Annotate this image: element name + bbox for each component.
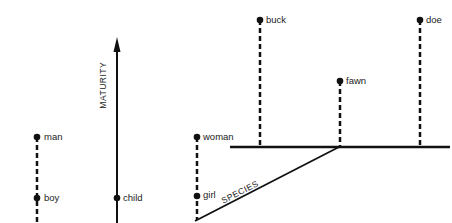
maturity-axis-label: MATURITY (99, 55, 108, 115)
node-woman-dot (194, 134, 201, 141)
label-fawn: fawn (346, 76, 366, 86)
label-boy: boy (44, 193, 59, 203)
label-woman: woman (203, 132, 234, 142)
node-child-dot (114, 195, 121, 202)
diagram-lines (0, 0, 452, 223)
label-man: man (44, 132, 62, 142)
label-girl: girl (203, 190, 216, 200)
node-doe-dot (417, 17, 424, 24)
species-axis-line (195, 147, 339, 221)
node-man-dot (34, 134, 41, 141)
label-buck: buck (266, 15, 286, 25)
node-girl-dot (194, 193, 201, 200)
label-child: child (123, 193, 143, 203)
node-buck-dot (257, 17, 264, 24)
maturity-arrow-icon (114, 37, 121, 52)
node-fawn-dot (337, 78, 344, 85)
node-boy-dot (34, 195, 41, 202)
label-doe: doe (426, 15, 442, 25)
semantic-feature-diagram: man boy child woman girl buck fawn doe M… (0, 0, 452, 223)
